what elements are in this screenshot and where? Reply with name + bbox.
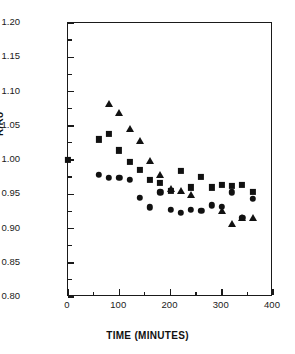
- data-point-circle: [208, 202, 214, 208]
- x-axis-tick-major: [119, 289, 121, 295]
- y-axis-tick-label: 0.95: [0, 188, 20, 198]
- x-axis-tick-major: [221, 289, 223, 295]
- x-axis-tick-minor: [247, 292, 248, 296]
- y-axis-tick-label: 1.20: [0, 17, 20, 27]
- data-point-triangle: [249, 214, 257, 221]
- data-point-circle: [249, 196, 255, 202]
- data-point-square: [239, 182, 245, 188]
- data-point-circle: [157, 189, 163, 195]
- data-point-triangle: [136, 137, 144, 144]
- data-point-triangle: [126, 125, 134, 132]
- data-point-square: [137, 166, 143, 172]
- x-axis-tick-minor: [93, 292, 94, 296]
- data-point-circle: [167, 207, 173, 213]
- data-point-square: [96, 136, 102, 142]
- data-point-circle: [126, 177, 132, 183]
- data-point-circle: [229, 189, 235, 195]
- y-axis-tick-major: [68, 194, 74, 196]
- y-axis-tick-minor: [68, 176, 72, 177]
- data-point-triangle: [146, 157, 154, 164]
- y-axis-tick-major: [68, 125, 74, 127]
- x-axis-tick-label: 0: [47, 300, 87, 310]
- data-point-triangle: [156, 171, 164, 178]
- y-axis-tick-major: [68, 91, 74, 93]
- x-axis-tick-label: 100: [98, 300, 138, 310]
- x-axis-tick-major: [170, 289, 172, 295]
- y-axis-tick-minor: [68, 74, 72, 75]
- y-axis-tick-major: [68, 262, 74, 264]
- y-axis-tick-label: 0.90: [0, 223, 20, 233]
- y-axis-tick-label: 1.10: [0, 86, 20, 96]
- y-axis-tick-label: 0.85: [0, 257, 20, 267]
- y-axis-tick-minor: [68, 211, 72, 212]
- y-axis-tick-major: [68, 57, 74, 59]
- data-point-circle: [106, 175, 112, 181]
- y-axis-tick-label: 1.05: [0, 120, 20, 130]
- data-point-square: [219, 182, 225, 188]
- data-point-square: [249, 188, 255, 194]
- y-axis-tick-label: 1.00: [0, 154, 20, 164]
- x-axis-tick-label: 300: [201, 300, 241, 310]
- data-point-triangle: [115, 109, 123, 116]
- data-point-circle: [137, 194, 143, 200]
- data-point-square: [147, 177, 153, 183]
- data-point-circle: [147, 204, 153, 210]
- data-point-circle: [178, 210, 184, 216]
- data-point-triangle: [228, 220, 236, 227]
- data-point-circle: [188, 207, 194, 213]
- x-axis-tick-label: 200: [150, 300, 190, 310]
- data-point-square: [198, 174, 204, 180]
- y-axis-tick-major: [68, 228, 74, 230]
- x-axis-tick-minor: [144, 292, 145, 296]
- x-axis-tick-major: [67, 289, 69, 295]
- y-axis-tick-label: 1.15: [0, 51, 20, 61]
- data-point-square: [126, 159, 132, 165]
- data-point-triangle: [187, 191, 195, 198]
- x-axis-title: TIME (MINUTES): [0, 330, 295, 341]
- scatter-chart-figure: R/Ro TIME (MINUTES) 0.800.850.900.951.00…: [0, 0, 295, 354]
- data-point-triangle: [177, 187, 185, 194]
- data-point-square: [106, 131, 112, 137]
- y-axis-tick-major: [68, 22, 74, 24]
- x-axis-tick-major: [272, 289, 274, 295]
- x-axis-tick-minor: [195, 292, 196, 296]
- plot-area: [67, 22, 272, 296]
- data-point-circle: [96, 172, 102, 178]
- y-axis-tick-minor: [68, 39, 72, 40]
- data-point-square: [65, 157, 71, 163]
- data-point-triangle: [167, 185, 175, 192]
- data-point-circle: [116, 175, 122, 181]
- data-point-triangle: [105, 100, 113, 107]
- data-point-square: [178, 168, 184, 174]
- y-axis-tick-minor: [68, 279, 72, 280]
- x-axis-tick-label: 400: [252, 300, 292, 310]
- y-axis-tick-major: [68, 296, 74, 298]
- data-point-square: [188, 184, 194, 190]
- y-axis-tick-minor: [68, 142, 72, 143]
- data-point-square: [208, 184, 214, 190]
- data-point-circle: [198, 207, 204, 213]
- data-point-square: [116, 147, 122, 153]
- data-point-square: [157, 180, 163, 186]
- y-axis-tick-minor: [68, 108, 72, 109]
- y-axis-tick-minor: [68, 245, 72, 246]
- y-axis-tick-label: 0.80: [0, 291, 20, 301]
